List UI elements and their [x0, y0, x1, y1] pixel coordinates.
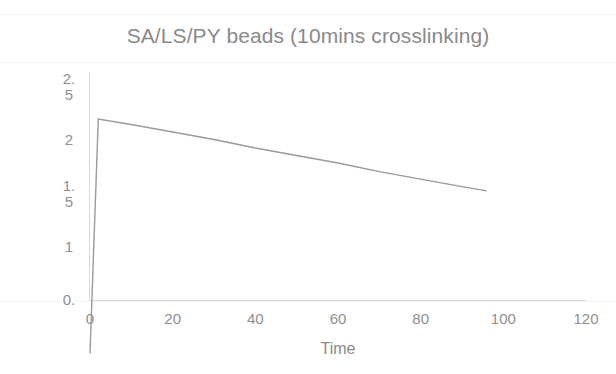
x-axis-tick-label: 20 [148, 310, 198, 328]
x-axis-tick-label: 100 [478, 310, 528, 328]
tick-label-text: 2 [52, 132, 86, 148]
x-axis-tick-label: 40 [230, 310, 280, 328]
x-axis-tick-label: 80 [396, 310, 446, 328]
x-axis-tick-label: 120 [561, 310, 611, 328]
y-axis-tick-label: 0. [52, 292, 86, 308]
tick-label-text: 5 [52, 194, 86, 210]
tick-label-text: 1. [52, 178, 86, 194]
tick-label-text: 5 [52, 87, 86, 103]
scan-artifact-band [0, 62, 616, 63]
scan-artifact-band [0, 301, 616, 302]
y-axis-tick-label: 1 [52, 239, 86, 255]
chart-figure: SA/LS/PY beads (10mins crosslinking) Con… [0, 0, 616, 374]
y-axis-tick-label: 1.5 [52, 178, 86, 210]
x-axis-line [89, 300, 586, 301]
y-axis-line [89, 72, 90, 301]
scan-artifact-band [0, 14, 616, 15]
x-axis-tick-label: 60 [313, 310, 363, 328]
y-axis-tick-label: 2.5 [52, 71, 86, 103]
y-axis-tick-label: 2 [52, 132, 86, 148]
x-axis-title: Time [88, 340, 588, 358]
tick-label-text: 2. [52, 71, 86, 87]
tick-label-text: 0. [52, 292, 86, 308]
chart-title: SA/LS/PY beads (10mins crosslinking) [0, 22, 616, 50]
tick-label-text: 1 [52, 239, 86, 255]
x-axis-tick-label: 0 [65, 310, 115, 328]
